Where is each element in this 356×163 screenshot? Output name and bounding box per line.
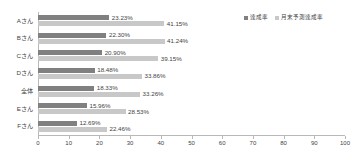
bar-wrapper: 39.15% [38,56,345,61]
axis-tick-label: 40 [157,140,164,146]
axis-tick-label: 90 [311,140,318,146]
axis-tick [345,136,346,139]
axis-tick [69,136,70,139]
bar-value-label: 22.30% [109,32,130,38]
bar-achievement-rate[interactable] [38,68,95,73]
category-label: 全体 [0,82,36,100]
value-axis: 0102030405060708090100 [38,136,345,156]
axis-tick [99,136,100,139]
bar-value-label: 18.48% [97,67,118,73]
axis-tick-label: 60 [219,140,226,146]
bar-value-label: 18.33% [97,85,118,91]
bar-value-label: 28.53% [128,109,149,115]
bar-forecast-achievement-rate[interactable] [38,109,126,114]
bar-chart: 達成率 月末予測達成率 AさんBさんCさんDさん全体EさんFさん 23.23%4… [0,0,356,163]
bar-achievement-rate[interactable] [38,50,102,55]
category-label: Eさん [0,100,36,118]
axis-tick-label: 20 [96,140,103,146]
bar-forecast-achievement-rate[interactable] [38,21,164,26]
category-label: Cさん [0,47,36,65]
bar-value-label: 23.23% [112,15,133,21]
bar-wrapper: 41.15% [38,21,345,26]
bar-forecast-achievement-rate[interactable] [38,39,165,44]
bar-value-label: 20.90% [105,50,126,56]
axis-tick [314,136,315,139]
axis-tick-label: 0 [36,140,39,146]
bar-wrapper: 22.46% [38,127,345,132]
bar-forecast-achievement-rate[interactable] [38,92,140,97]
bar-wrapper: 33.26% [38,92,345,97]
bar-group: 20.90%39.15% [38,47,345,65]
category-axis-labels: AさんBさんCさんDさん全体EさんFさん [0,12,36,135]
bar-achievement-rate[interactable] [38,86,94,91]
axis-tick-label: 10 [65,140,72,146]
bar-wrapper: 18.48% [38,68,345,73]
category-label: Fさん [0,117,36,135]
bar-wrapper: 18.33% [38,86,345,91]
bar-wrapper: 28.53% [38,109,345,114]
bar-achievement-rate[interactable] [38,103,87,108]
bar-forecast-achievement-rate[interactable] [38,127,107,132]
bar-group: 18.48%33.86% [38,65,345,83]
plot-area: 23.23%41.15%22.30%41.24%20.90%39.15%18.4… [38,12,345,136]
axis-tick-label: 30 [127,140,134,146]
bar-wrapper: 33.86% [38,74,345,79]
bar-wrapper: 15.96% [38,103,345,108]
category-label: Dさん [0,65,36,83]
bar-group: 15.96%28.53% [38,100,345,118]
bar-group: 18.33%33.26% [38,82,345,100]
bar-forecast-achievement-rate[interactable] [38,74,142,79]
axis-tick-label: 80 [280,140,287,146]
axis-tick-label: 100 [340,140,350,146]
axis-tick [161,136,162,139]
bar-value-label: 41.15% [167,21,188,27]
bar-achievement-rate[interactable] [38,33,106,38]
axis-tick [130,136,131,139]
bar-wrapper: 23.23% [38,15,345,20]
bar-group: 22.30%41.24% [38,30,345,48]
bar-rows: 23.23%41.15%22.30%41.24%20.90%39.15%18.4… [38,12,345,135]
bar-achievement-rate[interactable] [38,121,77,126]
bar-achievement-rate[interactable] [38,15,109,20]
axis-tick [284,136,285,139]
axis-tick-label: 70 [250,140,257,146]
category-label: Bさん [0,30,36,48]
category-label: Aさん [0,12,36,30]
axis-tick [38,136,39,139]
bar-value-label: 22.46% [109,126,130,132]
axis-tick [192,136,193,139]
bar-value-label: 39.15% [161,56,182,62]
bar-value-label: 12.69% [79,120,100,126]
bar-forecast-achievement-rate[interactable] [38,56,158,61]
bar-wrapper: 41.24% [38,39,345,44]
bar-wrapper: 22.30% [38,33,345,38]
bar-value-label: 41.24% [167,38,188,44]
bar-group: 23.23%41.15% [38,12,345,30]
bar-wrapper: 12.69% [38,121,345,126]
axis-tick-label: 50 [188,140,195,146]
bar-wrapper: 20.90% [38,50,345,55]
axis-tick [222,136,223,139]
axis-tick [253,136,254,139]
bar-value-label: 15.96% [89,103,110,109]
bar-value-label: 33.26% [143,91,164,97]
bar-group: 12.69%22.46% [38,117,345,135]
bar-value-label: 33.86% [144,73,165,79]
